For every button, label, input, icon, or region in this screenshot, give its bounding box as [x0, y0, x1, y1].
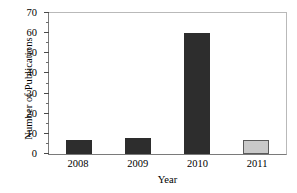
bar-slot: [49, 13, 108, 154]
y-tick-label: 40: [27, 68, 38, 79]
y-tick-label: 30: [27, 88, 38, 99]
bar-chart-figure: Number of Publications 010203040506070 2…: [0, 0, 297, 193]
bar-2010[interactable]: [184, 33, 210, 154]
x-axis-tick-labels: 2008200920102011: [48, 158, 287, 169]
bar-2009[interactable]: [125, 138, 151, 154]
y-tick-label: 50: [27, 48, 38, 59]
y-tick-label: 20: [27, 108, 38, 119]
bar-2008[interactable]: [66, 140, 92, 154]
x-tick-label-2011: 2011: [227, 158, 287, 169]
y-tick-label: 70: [27, 8, 38, 19]
bar-2011[interactable]: [243, 140, 269, 154]
bar-slot: [168, 13, 227, 154]
x-axis-title: Year: [48, 174, 287, 185]
plot-area: 010203040506070: [48, 12, 287, 155]
bar-series: [49, 13, 286, 154]
bar-slot: [227, 13, 286, 154]
y-tick-label: 0: [32, 149, 37, 160]
x-tick-label-2010: 2010: [168, 158, 228, 169]
y-tick-label: 10: [27, 129, 38, 140]
x-tick-label-2009: 2009: [108, 158, 168, 169]
bar-slot: [108, 13, 167, 154]
x-tick-label-2008: 2008: [48, 158, 108, 169]
y-tick-label: 60: [27, 28, 38, 39]
